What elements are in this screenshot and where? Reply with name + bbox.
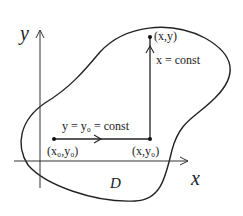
diagram-svg: y x D (x,y) (x₀,y₀) (x,y₀) x = const y =… xyxy=(0,0,243,216)
horizontal-path-label: y = y₀ = const xyxy=(62,119,130,133)
point-start xyxy=(52,137,56,141)
point-corner xyxy=(148,137,152,141)
point-end xyxy=(148,35,152,39)
point-corner-label: (x,y₀) xyxy=(132,144,159,158)
point-end-label: (x,y) xyxy=(154,29,177,43)
region-label: D xyxy=(109,175,121,191)
vertical-path-label: x = const xyxy=(156,53,201,67)
point-start-label: (x₀,y₀) xyxy=(47,144,78,158)
y-axis-label: y xyxy=(18,22,29,45)
line-integral-diagram: y x D (x,y) (x₀,y₀) (x,y₀) x = const y =… xyxy=(0,0,243,216)
x-axis-label: x xyxy=(190,167,200,189)
